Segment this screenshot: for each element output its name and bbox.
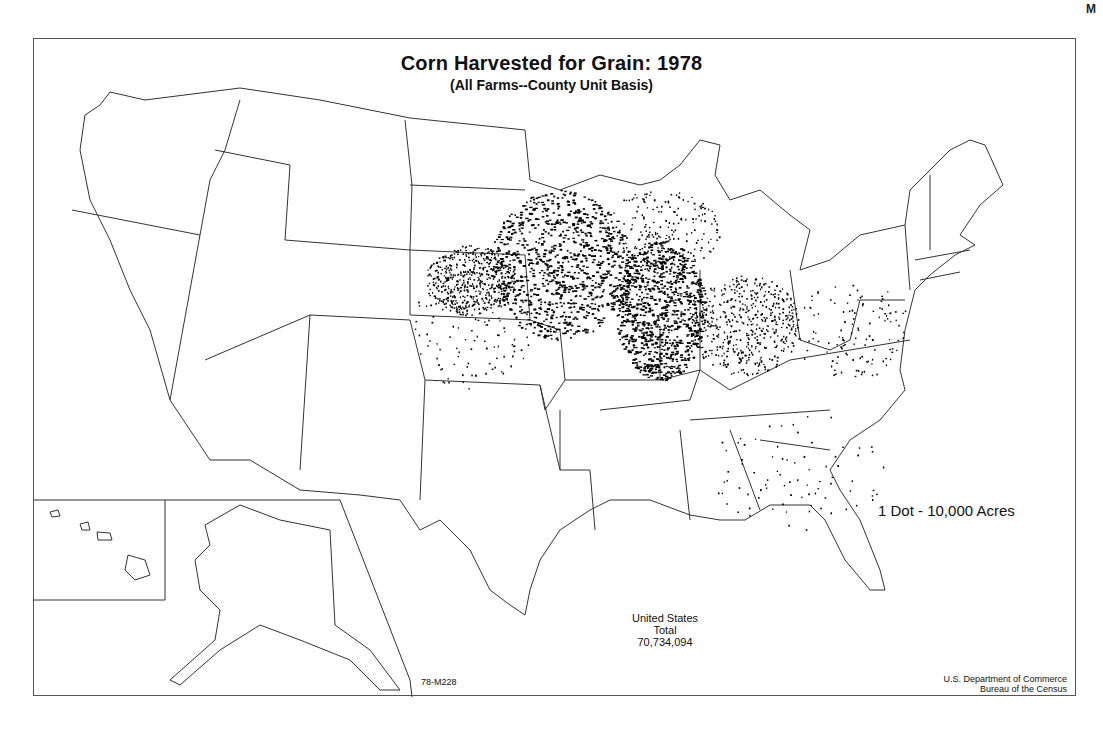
- hawaii-islands: [50, 510, 150, 580]
- us-total-block: United States Total 70,734,094: [585, 612, 745, 648]
- corn-dot-density: [415, 190, 906, 531]
- map-title: Corn Harvested for Grain: 1978: [0, 52, 1103, 75]
- dot-legend: 1 Dot - 10,000 Acres: [878, 502, 1015, 519]
- hawaii-inset-border: [33, 500, 165, 600]
- total-label-line1: United States: [585, 612, 745, 624]
- credit-line2: Bureau of the Census: [943, 684, 1067, 694]
- us-outline: [80, 88, 1003, 615]
- us-map: [0, 0, 1103, 729]
- credit-line1: U.S. Department of Commerce: [943, 674, 1067, 684]
- map-code: 78-M228: [421, 677, 457, 687]
- alaska-shape: [170, 505, 400, 690]
- map-subtitle: (All Farms--County Unit Basis): [0, 77, 1103, 93]
- source-credit: U.S. Department of Commerce Bureau of th…: [943, 674, 1067, 694]
- state-lines: [72, 100, 970, 530]
- total-value: 70,734,094: [585, 636, 745, 648]
- total-label-line2: Total: [585, 624, 745, 636]
